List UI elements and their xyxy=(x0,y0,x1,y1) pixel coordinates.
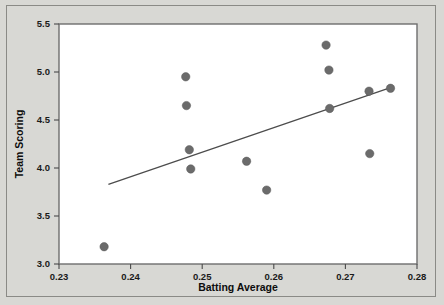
data-point-marker xyxy=(182,101,190,109)
y-tick-label: 3.0 xyxy=(37,258,50,269)
data-point-marker xyxy=(262,186,270,194)
y-axis-title: Team Scoring xyxy=(13,110,25,179)
y-axis-tick-labels: 3.03.54.04.55.05.5 xyxy=(37,18,51,269)
y-axis-tick-marks xyxy=(54,24,59,264)
y-tick-label: 3.5 xyxy=(37,210,51,221)
y-tick-label: 4.0 xyxy=(37,162,50,173)
scatter-plot: 3.03.54.04.55.05.5 0.230.240.250.260.270… xyxy=(7,6,435,296)
data-point-marker xyxy=(325,104,333,112)
x-axis-title: Batting Average xyxy=(198,281,278,293)
data-point-marker xyxy=(182,73,190,81)
data-point-marker xyxy=(100,243,108,251)
data-point-marker xyxy=(366,149,374,157)
x-tick-label: 0.27 xyxy=(336,271,355,282)
data-point-marker xyxy=(242,157,250,165)
data-point-marker xyxy=(365,87,373,95)
x-tick-label: 0.28 xyxy=(408,271,427,282)
y-tick-label: 5.0 xyxy=(37,66,50,77)
data-point-marker xyxy=(185,146,193,154)
x-axis-tick-marks xyxy=(59,264,417,269)
figure-frame: 3.03.54.04.55.05.5 0.230.240.250.260.270… xyxy=(6,5,436,297)
data-point-marker xyxy=(187,165,195,173)
y-tick-label: 5.5 xyxy=(37,18,51,29)
x-tick-label: 0.23 xyxy=(50,271,69,282)
data-point-marker xyxy=(325,66,333,74)
data-point-marker xyxy=(386,84,394,92)
x-tick-label: 0.24 xyxy=(121,271,140,282)
data-point-marker xyxy=(322,41,330,49)
y-tick-label: 4.5 xyxy=(37,114,51,125)
plot-panel-background xyxy=(59,24,417,264)
